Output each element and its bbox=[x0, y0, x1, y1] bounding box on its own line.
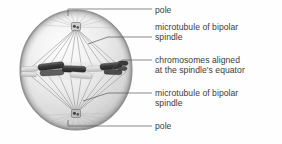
label-pole-bottom: pole bbox=[155, 121, 171, 131]
label-line: chromosomes aligned bbox=[155, 55, 245, 65]
label-line: microtubule of bipolar bbox=[155, 88, 238, 98]
top-pole-centrosome bbox=[72, 23, 81, 31]
label-microtubule-top: microtubule of bipolar spindle bbox=[155, 22, 238, 42]
cell-division-diagram: pole microtubule of bipolar spindle chro… bbox=[0, 0, 282, 144]
label-line: at the spindle's equator bbox=[155, 65, 245, 75]
label-line: spindle bbox=[155, 98, 238, 108]
label-microtubule-bottom: microtubule of bipolar spindle bbox=[155, 88, 238, 108]
label-line: spindle bbox=[155, 32, 238, 42]
label-line: pole bbox=[155, 121, 171, 131]
chromosome bbox=[62, 66, 86, 73]
chromosome bbox=[21, 66, 38, 77]
label-line: microtubule of bipolar bbox=[155, 22, 238, 32]
bottom-pole-centrosome bbox=[72, 110, 81, 118]
label-chromosomes: chromosomes aligned at the spindle's equ… bbox=[155, 55, 245, 75]
label-pole-top: pole bbox=[155, 5, 171, 15]
label-line: pole bbox=[155, 5, 171, 15]
